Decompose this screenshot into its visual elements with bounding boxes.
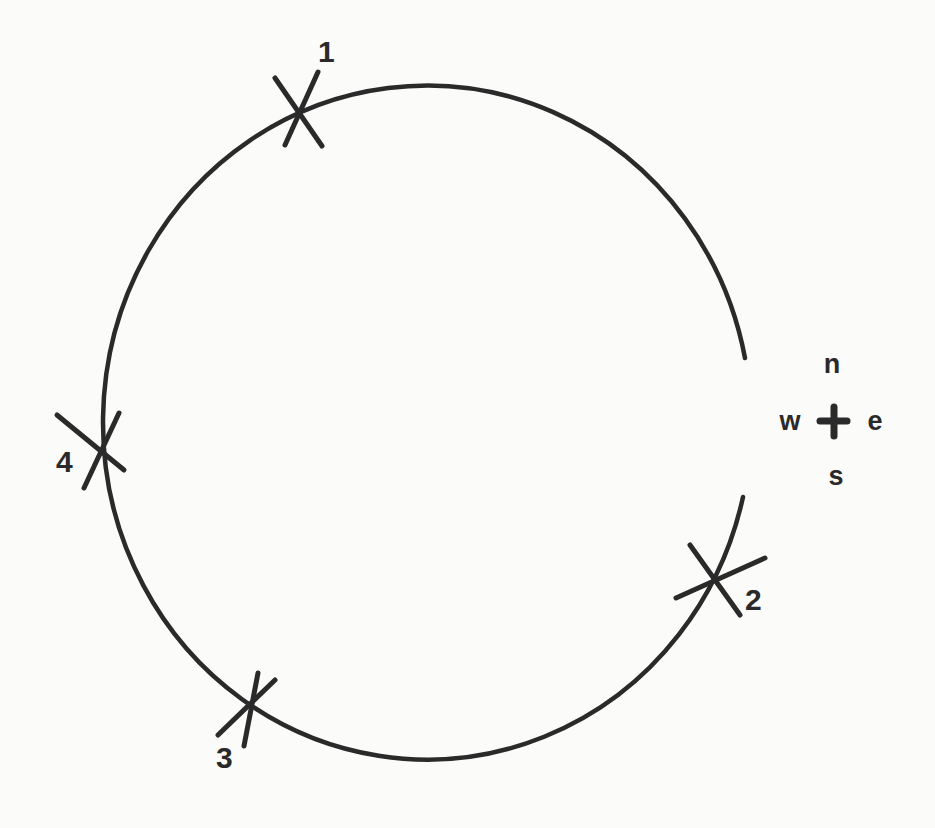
- compass-south-label: s: [828, 461, 843, 491]
- mark-label-1: 1: [318, 35, 335, 68]
- mark-label-3: 3: [216, 741, 233, 774]
- orbit-mark-1: [275, 72, 322, 146]
- compass-north-label: n: [824, 349, 841, 379]
- compass-cross-icon: [820, 407, 847, 436]
- mark-label-4: 4: [56, 445, 73, 478]
- compass-rose: n w e s: [778, 349, 882, 491]
- orbit-diagram: 1 2 3 4 n w e s: [0, 0, 935, 828]
- mark-label-2: 2: [745, 583, 762, 616]
- compass-west-label: w: [778, 406, 801, 436]
- orbit-mark-3: [218, 673, 275, 746]
- orbit-path: [103, 86, 745, 760]
- compass-east-label: e: [867, 406, 882, 436]
